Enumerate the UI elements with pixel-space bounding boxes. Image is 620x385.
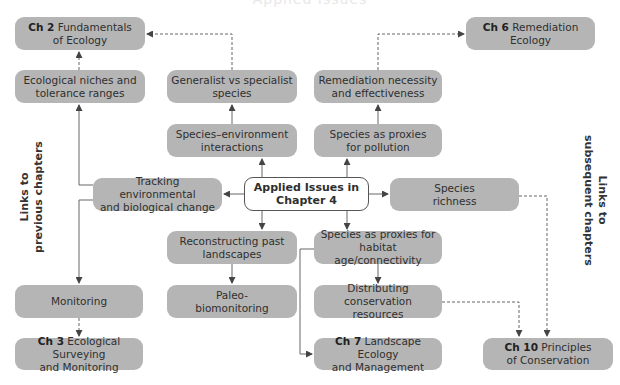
- chapter-title: Landscape Ecology: [357, 335, 420, 360]
- node-ch6-remediation: Ch 6 RemediationEcology: [466, 17, 595, 50]
- node-species-environment: Species–environmentinteractions: [167, 124, 297, 157]
- chapter-title-2: of Conservation: [507, 354, 590, 366]
- node-text: Tracking environmental: [119, 175, 195, 200]
- node-monitoring: Monitoring: [15, 285, 143, 318]
- node-ch2-fundamentals: Ch 2 Fundamentalsof Ecology: [15, 17, 145, 50]
- node-text: tolerance ranges: [36, 87, 125, 99]
- label-previous-chapters: Links to previous chapters: [18, 137, 46, 257]
- chapter-title-2: Ecology: [510, 34, 551, 46]
- label-line: Links to: [595, 135, 609, 265]
- node-text: Distributing conservation: [344, 282, 412, 307]
- node-text: Species as proxies for: [321, 228, 436, 240]
- node-text: Species–environment: [176, 128, 289, 140]
- node-distributing-resources: Distributing conservationresources: [314, 285, 442, 318]
- chapter-title: Fundamentals: [54, 21, 132, 33]
- node-reconstructing-landscapes: Reconstructing pastlandscapes: [167, 231, 297, 264]
- chapter-number: Ch 3: [38, 335, 64, 347]
- node-remediation-necessity: Remediation necessityand effectiveness: [314, 70, 442, 103]
- label-subsequent-chapters: Links to subsequent chapters: [581, 135, 609, 265]
- center-text: Applied Issues in: [254, 181, 359, 194]
- node-ch3-surveying: Ch 3 Ecological Surveyingand Monitoring: [15, 338, 143, 370]
- node-text: for pollution: [346, 141, 409, 153]
- node-text: species: [212, 87, 251, 99]
- node-text: Generalist vs specialist: [171, 74, 292, 86]
- node-text: Monitoring: [51, 295, 107, 307]
- node-text: interactions: [201, 141, 263, 153]
- node-text: Reconstructing past: [180, 235, 285, 247]
- node-species-richness: Speciesrichness: [390, 178, 519, 211]
- node-text: landscapes: [203, 248, 262, 260]
- node-text: Ecological niches and: [23, 74, 136, 86]
- node-proxies-pollution: Species as proxiesfor pollution: [314, 124, 442, 157]
- node-text: Species as proxies: [330, 128, 427, 140]
- node-ecological-niches: Ecological niches andtolerance ranges: [15, 70, 145, 103]
- chapter-title-2: and Management: [332, 361, 424, 373]
- node-text: and biological change: [100, 201, 215, 213]
- node-text: biomonitoring: [195, 302, 268, 314]
- chapter-title-2: and Monitoring: [39, 361, 118, 373]
- center-text: Chapter 4: [276, 194, 337, 207]
- label-line: previous chapters: [32, 137, 46, 257]
- label-line: subsequent chapters: [581, 135, 595, 265]
- node-text: Remediation necessity: [319, 74, 438, 86]
- chapter-number: Ch 10: [504, 341, 537, 353]
- node-text: richness: [433, 195, 477, 207]
- node-ch10-conservation: Ch 10 Principlesof Conservation: [483, 338, 613, 370]
- node-text: Species: [434, 182, 474, 194]
- node-proxies-habitat: Species as proxies forhabitat age/connec…: [314, 231, 442, 264]
- chapter-number: Ch 6: [483, 21, 509, 33]
- chapter-title-2: of Ecology: [53, 34, 108, 46]
- node-text: habitat age/connectivity: [334, 241, 421, 266]
- node-applied-issues-center: Applied Issues inChapter 4: [244, 177, 369, 211]
- node-generalist-specialist: Generalist vs specialistspecies: [167, 70, 297, 103]
- chapter-number: Ch 2: [28, 21, 54, 33]
- node-text: and effectiveness: [332, 87, 425, 99]
- node-text: resources: [353, 308, 404, 320]
- label-line: Links to: [18, 137, 32, 257]
- chapter-number: Ch 7: [335, 335, 361, 347]
- node-text: Paleo-: [216, 289, 248, 301]
- node-paleo-biomonitoring: Paleo-biomonitoring: [167, 285, 297, 318]
- node-tracking-change: Tracking environmentaland biological cha…: [93, 178, 222, 211]
- node-ch7-landscape: Ch 7 Landscape Ecologyand Management: [314, 338, 442, 370]
- chapter-title: Remediation: [509, 21, 578, 33]
- chapter-title: Principles: [538, 341, 592, 353]
